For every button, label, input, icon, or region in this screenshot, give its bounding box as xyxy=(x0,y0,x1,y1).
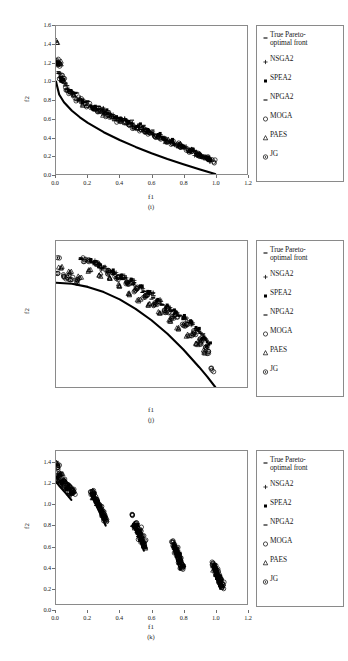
x-axis-label-i: f1 xyxy=(131,193,171,201)
dash-marker xyxy=(261,458,270,468)
square-marker xyxy=(264,79,267,82)
y-tick-label: 1.0 xyxy=(27,77,51,84)
legend-label: NPGA2 xyxy=(270,93,293,101)
square-marker xyxy=(261,76,270,86)
triangle-marker xyxy=(261,133,270,143)
panel-i: 0.00.20.40.60.81.01.21.41.6 0.00.20.40.6… xyxy=(0,0,348,215)
dash-marker xyxy=(261,310,270,320)
y-tick-label: 1.2 xyxy=(27,59,51,66)
legend-label: MOGA xyxy=(270,112,292,120)
y-tick-label: 0.0 xyxy=(27,171,51,178)
circle-marker xyxy=(263,332,267,336)
plus-marker xyxy=(261,482,270,492)
legend-label: SPEA2 xyxy=(270,74,291,82)
plus-marker xyxy=(263,275,267,279)
triangle-marker xyxy=(263,560,267,564)
square-marker xyxy=(209,341,212,344)
square-marker xyxy=(261,291,270,301)
legend-label: True Pareto- optimal front xyxy=(270,246,308,263)
square-marker xyxy=(130,278,133,281)
y-axis-label-i: f2 xyxy=(23,89,31,109)
triangle-marker xyxy=(263,350,267,354)
legend-label: True Pareto- optimal front xyxy=(270,456,308,473)
series-moga xyxy=(56,256,216,374)
panel-caption-i: (i) xyxy=(131,203,171,210)
diamond-marker xyxy=(263,155,267,159)
legend-item-paes[interactable]: PAES xyxy=(261,131,343,143)
y-tick-mark xyxy=(52,100,55,101)
diamond-marker xyxy=(261,577,270,587)
circle-marker xyxy=(261,329,270,339)
legend-i: True Pareto- optimal frontNSGA2SPEA2NPGA… xyxy=(256,25,344,182)
legend-item-true-pareto[interactable]: True Pareto- optimal front xyxy=(261,31,343,48)
legend-label: PAES xyxy=(270,131,287,139)
circle-marker xyxy=(263,542,267,546)
scatter-canvas-i xyxy=(56,26,247,174)
plot-area-j xyxy=(55,240,248,388)
legend-item-moga[interactable]: MOGA xyxy=(261,112,343,124)
legend-item-nsga2[interactable]: NSGA2 xyxy=(261,480,343,492)
legend-item-jg[interactable]: JG xyxy=(261,365,343,377)
square-marker xyxy=(264,504,267,507)
legend-item-spea2[interactable]: SPEA2 xyxy=(261,289,343,301)
legend-label: NSGA2 xyxy=(270,480,293,488)
diamond-marker xyxy=(263,580,267,584)
legend-label: JG xyxy=(270,150,278,158)
triangle-marker xyxy=(261,558,270,568)
legend-item-npga2[interactable]: NPGA2 xyxy=(261,518,343,530)
legend-label: NPGA2 xyxy=(270,518,293,526)
series-jg xyxy=(56,463,226,588)
legend-j: True Pareto- optimal frontNSGA2SPEA2NPGA… xyxy=(256,240,344,397)
series-moga xyxy=(56,464,226,591)
legend-label: PAES xyxy=(270,346,287,354)
y-tick-label: 0.4 xyxy=(27,134,51,141)
legend-item-nsga2[interactable]: NSGA2 xyxy=(261,55,343,67)
diamond-marker xyxy=(261,152,270,162)
legend-item-paes[interactable]: PAES xyxy=(261,556,343,568)
legend-label: JG xyxy=(270,365,278,373)
legend-label: NSGA2 xyxy=(270,270,293,278)
triangle-marker xyxy=(261,348,270,358)
x-tick-mark xyxy=(216,175,217,178)
legend-item-true-pareto[interactable]: True Pareto- optimal front xyxy=(261,246,343,263)
legend-item-moga[interactable]: MOGA xyxy=(261,537,343,549)
plot-area-i xyxy=(55,25,248,175)
square-marker xyxy=(264,294,267,297)
panel-caption-j: (j) xyxy=(131,416,171,423)
circle-marker xyxy=(261,114,270,124)
legend-item-jg[interactable]: JG xyxy=(261,575,343,587)
panel-j: 0.00.20.40.60.81.01.21.4 0.00.20.40.60.8… xyxy=(0,222,348,434)
panel-caption-k: (k) xyxy=(131,633,171,640)
legend-item-npga2[interactable]: NPGA2 xyxy=(261,308,343,320)
legend-item-true-pareto[interactable]: True Pareto- optimal front xyxy=(261,456,343,473)
diamond-marker xyxy=(261,367,270,377)
legend-item-spea2[interactable]: SPEA2 xyxy=(261,74,343,86)
figure-pareto-front-comparison: 0.00.20.40.60.81.01.21.41.6 0.00.20.40.6… xyxy=(0,0,348,661)
dash-marker xyxy=(261,95,270,105)
square-marker xyxy=(166,304,169,307)
legend-label: JG xyxy=(270,575,278,583)
scatter-canvas-j xyxy=(56,241,247,387)
legend-item-paes[interactable]: PAES xyxy=(261,346,343,358)
legend-item-moga[interactable]: MOGA xyxy=(261,327,343,339)
legend-label: True Pareto- optimal front xyxy=(270,31,308,48)
square-marker xyxy=(183,314,186,317)
legend-label: PAES xyxy=(270,556,287,564)
legend-item-spea2[interactable]: SPEA2 xyxy=(261,499,343,511)
legend-label: NSGA2 xyxy=(270,55,293,63)
dash-marker xyxy=(261,33,270,43)
legend-label: SPEA2 xyxy=(270,499,291,507)
y-axis-label-j: f2 xyxy=(23,301,31,321)
legend-item-npga2[interactable]: NPGA2 xyxy=(261,93,343,105)
legend-item-nsga2[interactable]: NSGA2 xyxy=(261,270,343,282)
y-tick-label: 1.4 xyxy=(27,40,51,47)
legend-label: SPEA2 xyxy=(270,289,291,297)
x-tick-mark xyxy=(248,175,249,178)
circle-marker xyxy=(263,117,267,121)
y-tick-mark xyxy=(52,119,55,120)
legend-label: MOGA xyxy=(270,327,292,335)
x-tick-mark xyxy=(119,175,120,178)
square-marker xyxy=(261,501,270,511)
legend-item-jg[interactable]: JG xyxy=(261,150,343,162)
x-tick-label: 1.0 xyxy=(203,179,229,186)
